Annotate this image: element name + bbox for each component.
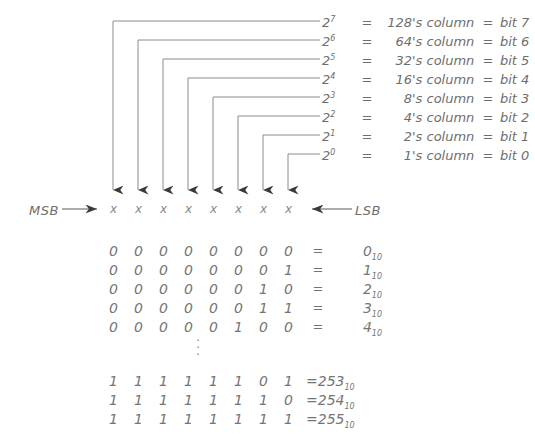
bit-cell: 0	[151, 281, 176, 297]
bit-cell: 0	[176, 262, 201, 278]
bit-cell: 1	[176, 392, 201, 408]
equals-sign: =	[476, 110, 500, 125]
bit-placeholder: x	[201, 202, 226, 216]
equals-sign: =	[356, 15, 378, 30]
legend-row: 26 = 64's column = bit 6	[322, 32, 529, 51]
bit-cell: 1	[126, 392, 151, 408]
equals-sign: =	[476, 129, 500, 144]
legend-row: 24 = 16's column = bit 4	[322, 70, 529, 89]
bit-cell: 0	[101, 281, 126, 297]
bit-cell: 0	[251, 243, 276, 259]
legend-row: 23 = 8's column = bit 3	[322, 89, 529, 108]
bit-cell: 0	[276, 392, 301, 408]
decimal-value: 110	[336, 262, 382, 281]
bit-cell: 0	[101, 319, 126, 335]
bit-cell: 1	[101, 411, 126, 427]
bit-cell: 0	[151, 319, 176, 335]
equals-sign: =	[307, 262, 329, 277]
bit-cell: 0	[101, 262, 126, 278]
bit-cell: 1	[276, 373, 301, 389]
equals-sign: =	[356, 91, 378, 106]
bit-label: bit 1	[500, 129, 529, 144]
bit-cell: 0	[126, 262, 151, 278]
bit-placeholder: x	[276, 202, 301, 216]
bit-cell: 1	[276, 262, 301, 278]
decimal-value: =25510	[306, 411, 384, 430]
column-name: 128's column	[378, 15, 476, 30]
bit-cell: 1	[276, 300, 301, 316]
bit-cell: 0	[176, 300, 201, 316]
bit-cell: 1	[226, 392, 251, 408]
equals-sign: =	[476, 72, 500, 87]
column-name: 8's column	[378, 91, 476, 106]
place-value-legend: 27 = 128's column = bit 7 26 = 64's colu…	[322, 13, 529, 165]
equals-sign: =	[356, 129, 378, 144]
msb-label: MSB	[29, 203, 59, 218]
bit-cell: 1	[201, 411, 226, 427]
decimal-value: 410	[336, 319, 382, 338]
bit-placeholder: x	[226, 202, 251, 216]
column-name: 16's column	[378, 72, 476, 87]
bit-cell: 0	[201, 281, 226, 297]
diagram-canvas: 27 = 128's column = bit 7 26 = 64's colu…	[0, 0, 535, 443]
bit-cell: 0	[201, 319, 226, 335]
equals-sign: =	[356, 110, 378, 125]
bit-cell: 1	[201, 373, 226, 389]
equals-sign: =	[476, 148, 500, 163]
bit-cell: 0	[276, 319, 301, 335]
decimal-value: 210	[336, 281, 382, 300]
bit-cell: 1	[251, 300, 276, 316]
bit-cell: 0	[276, 281, 301, 297]
bit-cell: 0	[126, 300, 151, 316]
bit-cell: 1	[176, 373, 201, 389]
bit-cell: 1	[251, 392, 276, 408]
bit-cell: 1	[276, 411, 301, 427]
equals-sign: =	[307, 300, 329, 315]
bit-cell: 1	[226, 411, 251, 427]
decimal-value: 310	[336, 300, 382, 319]
legend-row: 25 = 32's column = bit 5	[322, 51, 529, 70]
bit-label: bit 6	[500, 34, 529, 49]
equals-sign: =	[307, 319, 329, 334]
equals-sign: =	[476, 15, 500, 30]
column-name: 32's column	[378, 53, 476, 68]
power-of-two: 23	[322, 91, 356, 106]
bit-label: bit 3	[500, 91, 529, 106]
power-of-two: 22	[322, 110, 356, 125]
power-of-two: 27	[322, 15, 356, 30]
bit-cell: 0	[201, 262, 226, 278]
bit-cell: 0	[276, 243, 301, 259]
power-of-two: 21	[322, 129, 356, 144]
power-of-two: 26	[322, 34, 356, 49]
bit-cell: 0	[126, 243, 151, 259]
bit-cell: 0	[226, 300, 251, 316]
bit-cell: 1	[226, 373, 251, 389]
bit-cell: 1	[251, 281, 276, 297]
bit-cell: 1	[126, 411, 151, 427]
column-name: 2's column	[378, 129, 476, 144]
bit-placeholder: x	[101, 202, 126, 216]
power-of-two: 24	[322, 72, 356, 87]
legend-row: 21 = 2's column = bit 1	[322, 127, 529, 146]
bit-cell: 1	[151, 392, 176, 408]
column-name: 64's column	[378, 34, 476, 49]
bit-label: bit 4	[500, 72, 529, 87]
bit-cell: 1	[226, 319, 251, 335]
power-of-two: 20	[322, 148, 356, 163]
equals-sign: =	[476, 91, 500, 106]
bit-label: bit 5	[500, 53, 529, 68]
bit-cell: 0	[251, 373, 276, 389]
bit-cell: 0	[126, 281, 151, 297]
decimal-value: 010	[336, 243, 382, 262]
bit-label: bit 2	[500, 110, 529, 125]
legend-row: 22 = 4's column = bit 2	[322, 108, 529, 127]
column-name: 4's column	[378, 110, 476, 125]
bit-cell: 1	[126, 373, 151, 389]
bit-cell: 1	[176, 411, 201, 427]
equals-sign: =	[307, 281, 329, 296]
bit-cell: 1	[151, 373, 176, 389]
bit-cell: 0	[226, 281, 251, 297]
bit-placeholder: x	[126, 202, 151, 216]
equals-sign: =	[356, 34, 378, 49]
bit-cell: 0	[251, 319, 276, 335]
